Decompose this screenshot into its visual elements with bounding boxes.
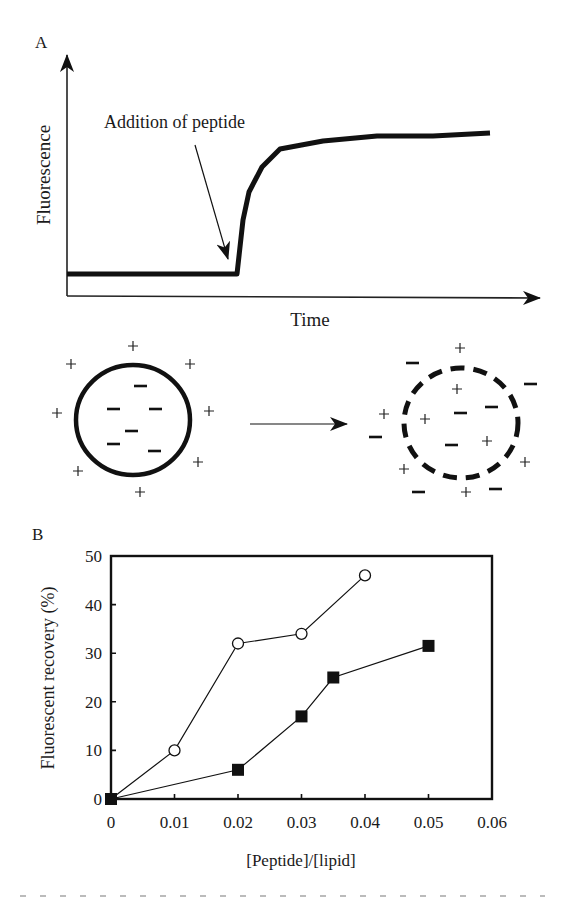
data-point	[169, 745, 180, 756]
data-point	[233, 638, 244, 649]
y-axis-title-b: Fluorescent recovery (%)	[38, 587, 59, 770]
annotation-text: Addition of peptide	[104, 112, 245, 132]
inside-minus-charges	[107, 386, 162, 451]
data-point	[105, 793, 117, 805]
x-axis-title: Time	[290, 309, 329, 330]
svg-text:10: 10	[85, 741, 102, 760]
svg-text:0.01: 0.01	[160, 813, 190, 832]
series-filled-squares	[105, 640, 435, 805]
disrupted-membrane	[404, 368, 518, 478]
svg-text:0.02: 0.02	[223, 813, 253, 832]
intact-vesicle	[52, 341, 214, 497]
svg-text:0.03: 0.03	[287, 813, 317, 832]
panel-a: A Fluorescence Time Addition of peptide	[33, 33, 540, 330]
intact-membrane	[76, 365, 190, 475]
mixed-minus-charges	[369, 363, 537, 492]
y-axis-title: Fluorescence	[33, 125, 54, 225]
panel-b: B 0 10 20 30 40 50 0 0.01 0.02 0.03 0.04…	[32, 525, 507, 870]
x-axis-arrow	[67, 296, 540, 298]
vesicle-diagram	[52, 341, 537, 497]
figure-canvas: A Fluorescence Time Addition of peptide	[0, 0, 562, 898]
svg-text:20: 20	[85, 693, 102, 712]
svg-text:40: 40	[85, 596, 102, 615]
annotation-arrow	[195, 145, 228, 259]
data-point	[296, 710, 308, 722]
svg-text:0.06: 0.06	[477, 813, 507, 832]
data-point	[327, 672, 339, 684]
y-tick-labels: 0 10 20 30 40 50	[85, 547, 102, 809]
fluorescence-curve	[67, 133, 490, 274]
data-point	[360, 570, 371, 581]
svg-text:0: 0	[107, 813, 116, 832]
svg-text:0: 0	[94, 790, 103, 809]
svg-text:30: 30	[85, 644, 102, 663]
svg-text:0.04: 0.04	[350, 813, 380, 832]
data-point	[296, 628, 307, 639]
plot-frame	[111, 556, 492, 799]
data-point	[232, 764, 244, 776]
panel-b-label: B	[32, 525, 43, 544]
svg-text:0.05: 0.05	[414, 813, 444, 832]
x-axis-title-b: [Peptide]/[lipid]	[246, 851, 356, 870]
svg-text:50: 50	[85, 547, 102, 566]
data-point	[423, 640, 435, 652]
panel-a-label: A	[35, 33, 48, 52]
x-tick-labels: 0 0.01 0.02 0.03 0.04 0.05 0.06	[107, 813, 507, 832]
disrupted-vesicle	[369, 343, 537, 497]
